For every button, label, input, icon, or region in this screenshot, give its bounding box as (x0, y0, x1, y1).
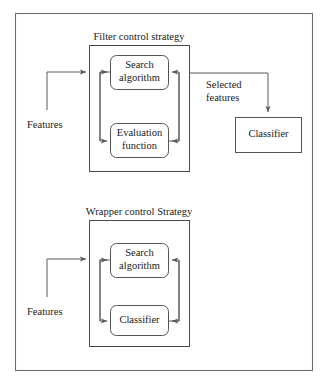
filter-loop-left-to-search (100, 72, 107, 141)
filter-search-algorithm-label-line2: algorithm (119, 72, 160, 83)
filter-loop-left-to-evaluation (100, 72, 111, 141)
wrapper-section: Wrapper control Strategy Search algorith… (27, 206, 193, 346)
filter-section-title: Filter control strategy (94, 31, 186, 42)
filter-section: Filter control strategy Search algorithm… (27, 31, 302, 171)
filter-evaluation-function-label-line1: Evaluation (117, 127, 163, 138)
wrapper-section-title: Wrapper control Strategy (86, 206, 193, 217)
selected-features-label-line1: Selected (206, 79, 242, 90)
wrapper-loop-left-to-search (100, 260, 107, 321)
wrapper-classifier-node: Classifier (111, 306, 169, 336)
wrapper-search-algorithm-label-line1: Search (125, 247, 154, 258)
filter-search-algorithm-label-line1: Search (125, 59, 154, 70)
filter-evaluation-function-node: Evaluation function (111, 124, 169, 158)
wrapper-loop-left-to-classifier (100, 260, 111, 321)
feature-selection-diagram: Filter control strategy Search algorithm… (0, 0, 329, 386)
wrapper-search-algorithm-node: Search algorithm (111, 244, 169, 278)
filter-loop-right-to-evaluation (172, 72, 179, 141)
filter-loop-right-to-search (169, 72, 180, 141)
diagram-page: Filter control strategy Search algorithm… (0, 0, 329, 386)
external-classifier-node: Classifier (236, 118, 302, 153)
wrapper-classifier-label: Classifier (119, 314, 160, 325)
wrapper-features-input-arrow (47, 259, 86, 297)
wrapper-loop-right-to-classifier (172, 260, 179, 321)
filter-search-algorithm-node: Search algorithm (111, 56, 169, 90)
filter-features-label: Features (27, 119, 63, 130)
filter-features-input-arrow (47, 72, 86, 110)
filter-evaluation-function-label-line2: function (122, 140, 158, 151)
selected-features-label-line2: features (206, 92, 239, 103)
wrapper-search-algorithm-label-line2: algorithm (119, 260, 160, 271)
wrapper-features-label: Features (27, 306, 63, 317)
external-classifier-label: Classifier (248, 128, 289, 139)
wrapper-loop-right-to-search (169, 260, 180, 321)
